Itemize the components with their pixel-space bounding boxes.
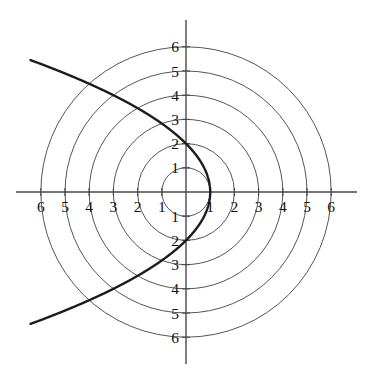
- curve-lower-branch: [31, 192, 211, 324]
- x-tick-label--4: 4: [85, 198, 93, 215]
- y-tick-label-4: 4: [171, 87, 179, 104]
- y-tick-label-1: 1: [171, 159, 179, 176]
- plot-svg: 654321123456 654321123456: [0, 0, 369, 377]
- curve-upper-branch: [31, 60, 211, 192]
- y-tick-label--3: 3: [171, 256, 179, 273]
- y-tick-label-6: 6: [171, 38, 179, 55]
- x-tick-label-2: 2: [231, 198, 239, 215]
- y-tick-label--2: 2: [171, 232, 179, 249]
- x-tick-label--3: 3: [110, 198, 118, 215]
- y-tick-label--4: 4: [171, 280, 179, 297]
- y-tick-label-2: 2: [171, 135, 179, 152]
- x-tick-label-4: 4: [279, 198, 287, 215]
- x-tick-label--2: 2: [134, 198, 142, 215]
- y-tick-label--5: 5: [171, 305, 179, 322]
- x-tick-label-1: 1: [206, 198, 214, 215]
- x-tick-label--1: 1: [158, 198, 166, 215]
- x-tick-label--6: 6: [37, 198, 45, 215]
- y-tick-label--6: 6: [171, 329, 179, 346]
- x-tick-label-3: 3: [255, 198, 263, 215]
- y-tick-label--1: 1: [171, 208, 179, 225]
- polar-plot-figure: 654321123456 654321123456: [0, 0, 369, 377]
- x-tick-label-6: 6: [327, 198, 335, 215]
- x-tick-label--5: 5: [61, 198, 69, 215]
- y-tick-label-3: 3: [171, 111, 179, 128]
- x-tick-label-5: 5: [303, 198, 311, 215]
- y-tick-label-5: 5: [171, 63, 179, 80]
